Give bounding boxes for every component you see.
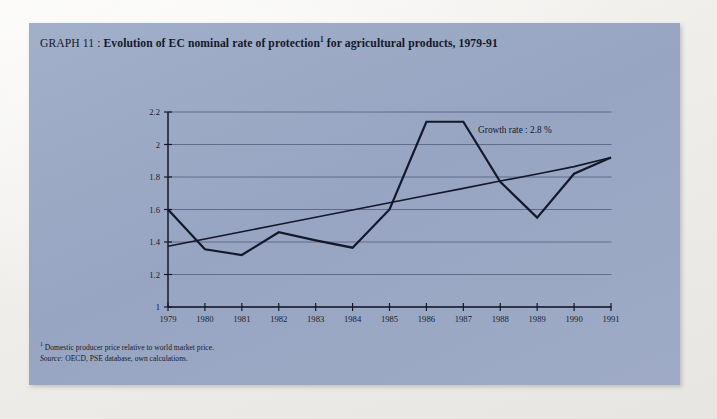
chart-trend-line <box>168 158 611 247</box>
figure-footnotes: 1 Domestic producer price relative to wo… <box>40 339 540 364</box>
y-tick-label: 2 <box>156 140 160 150</box>
x-tick-label: 1991 <box>602 314 619 324</box>
x-tick-label: 1989 <box>529 314 546 324</box>
chart-annotations: Growth rate : 2.8 % <box>478 125 552 135</box>
y-tick-label: 1.8 <box>149 172 160 182</box>
page-canvas: GRAPH 11 : Evolution of EC nominal rate … <box>0 0 717 419</box>
y-tick-label: 2.2 <box>149 107 160 117</box>
chart-svg: 11.21.41.61.822.2 1979198019811982198319… <box>29 23 680 385</box>
x-tick-label: 1983 <box>307 314 324 324</box>
footnote-marker: 1 <box>40 341 43 347</box>
chart-x-axis-ticks: 1979198019811982198319841985198619871988… <box>159 303 619 324</box>
footnote-source-text: OECD, PSE database, own calculations. <box>65 354 188 363</box>
x-tick-label: 1982 <box>270 314 287 324</box>
x-tick-label: 1981 <box>233 314 250 324</box>
footnote-note-row: 1 Domestic producer price relative to wo… <box>40 339 540 353</box>
chart-plot-area: 11.21.41.61.822.2 1979198019811982198319… <box>29 23 680 385</box>
footnote-source-row: Source: OECD, PSE database, own calculat… <box>40 353 540 364</box>
y-tick-label: 1.4 <box>149 237 160 247</box>
figure-panel: GRAPH 11 : Evolution of EC nominal rate … <box>29 23 680 385</box>
annotation-growth-rate: Growth rate : 2.8 % <box>478 125 552 135</box>
y-tick-label: 1 <box>156 302 160 312</box>
footnote-source-label: Source: <box>40 354 63 363</box>
x-tick-label: 1990 <box>565 314 582 324</box>
x-tick-label: 1987 <box>455 314 473 324</box>
x-tick-label: 1979 <box>159 314 176 324</box>
x-tick-label: 1980 <box>196 314 213 324</box>
x-tick-label: 1984 <box>344 314 362 324</box>
x-tick-label: 1985 <box>381 314 398 324</box>
x-tick-label: 1988 <box>492 314 509 324</box>
x-tick-label: 1986 <box>418 314 436 324</box>
chart-data-line <box>168 122 611 255</box>
y-tick-label: 1.2 <box>149 270 160 280</box>
y-tick-label: 1.6 <box>149 205 160 215</box>
footnote-note-text: Domestic producer price relative to worl… <box>45 343 214 352</box>
